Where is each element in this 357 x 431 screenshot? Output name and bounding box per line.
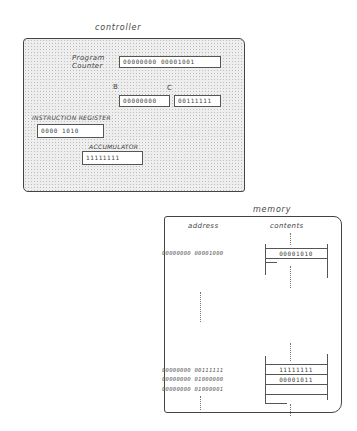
- address-ellipsis: [200, 292, 202, 322]
- program-counter-label-line2: Counter: [72, 62, 105, 70]
- accumulator-label: ACCUMULATOR: [89, 143, 138, 150]
- register-c-label: C: [167, 84, 172, 92]
- program-counter-register: 00000000 00001001: [119, 56, 221, 68]
- memory-address-row: 00000000 01000001: [162, 386, 223, 392]
- cell-border-right: [327, 354, 328, 400]
- memory-address-row: 00000000 00111111: [162, 367, 223, 373]
- contents-ellipsis: [290, 233, 292, 245]
- cell-divider: [265, 262, 277, 263]
- contents-header: contents: [270, 222, 304, 230]
- instruction-register-label: INSTRUCTION REGISTER: [32, 114, 111, 121]
- program-counter-label-line1: Program: [72, 54, 105, 62]
- memory-contents-cell: 00001011: [265, 374, 327, 385]
- contents-ellipsis: [290, 343, 292, 361]
- memory-address-row: 00000000 01000000: [162, 376, 223, 382]
- contents-ellipsis: [290, 266, 292, 288]
- address-ellipsis: [200, 396, 202, 410]
- memory-contents-cell: 00001010: [265, 248, 327, 259]
- accumulator-register: 11111111: [82, 151, 143, 165]
- memory-title: memory: [253, 205, 291, 214]
- memory-address-row: 00000000 00001000: [162, 250, 223, 256]
- address-header: address: [188, 222, 218, 230]
- cell-border-right: [327, 244, 328, 278]
- register-c: 00111111: [174, 95, 221, 107]
- program-counter-label: Program Counter: [72, 54, 105, 70]
- controller-title: controller: [95, 23, 141, 32]
- instruction-register: 0000 1010: [37, 124, 104, 138]
- register-b-label: B: [113, 83, 118, 91]
- cell-divider: [265, 403, 287, 404]
- register-b: 00000000: [119, 95, 170, 107]
- cell-divider: [265, 394, 327, 395]
- contents-ellipsis: [290, 404, 292, 416]
